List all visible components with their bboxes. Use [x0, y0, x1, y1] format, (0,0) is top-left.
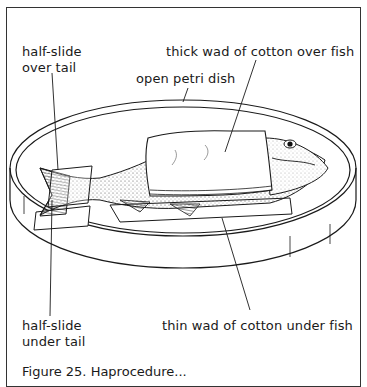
- label-open-petri-dish: open petri dish: [136, 71, 235, 87]
- label-thin-cotton-wad: thin wad of cotton under fish: [162, 318, 353, 334]
- half-slide-over: [48, 166, 92, 207]
- figure-caption: Figure 25. Наprocedure...: [22, 364, 187, 379]
- label-half-slide-under-tail: half-slide under tail: [22, 318, 86, 350]
- label-half-slide-over-tail: half-slide over tail: [22, 44, 82, 76]
- thick-cotton-wad: [146, 131, 272, 196]
- label-thick-cotton-wad: thick wad of cotton over fish: [166, 44, 354, 60]
